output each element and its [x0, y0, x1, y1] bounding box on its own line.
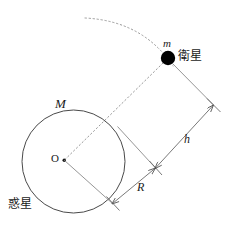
planet-mass-label: M	[55, 97, 66, 110]
orbit-arc	[85, 18, 173, 66]
satellite-orbit-diagram: M O m h R 衛星 惑星	[0, 0, 237, 232]
satellite-mass-label: m	[163, 38, 171, 49]
satellite-name-label: 衛星	[178, 50, 202, 62]
planet-name-label: 惑星	[8, 198, 32, 210]
radius-tick-inner	[107, 197, 120, 211]
diagram-canvas	[0, 0, 237, 232]
center-to-satellite-dotted-line	[65, 63, 163, 160]
center-to-surface-line	[64, 160, 112, 203]
planet-center-label: O	[51, 153, 59, 164]
radius-label: R	[137, 181, 144, 193]
satellite-dot	[161, 51, 175, 65]
planet-circle	[22, 110, 125, 213]
altitude-label: h	[184, 133, 190, 145]
